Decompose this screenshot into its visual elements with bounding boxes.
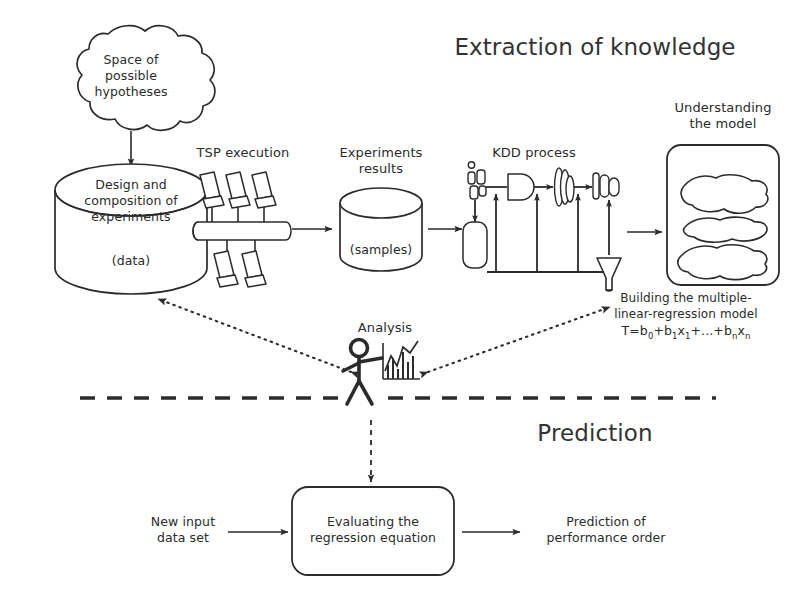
prediction-output-line2: performance order (521, 531, 691, 546)
analysis-caption: Analysis (330, 320, 440, 335)
model-blob-3 (678, 245, 767, 280)
results-caption-line2: results (326, 161, 436, 176)
kdd-caption: KDD process (464, 145, 604, 160)
feedback-arrow-right (428, 307, 610, 372)
formula-part-1: T=b (622, 323, 648, 338)
formula-part-4: +...+b (691, 323, 732, 338)
results-caption-line1: Experiments (326, 145, 436, 160)
formula-part-5: x (737, 323, 745, 338)
diagram-canvas: Extraction of knowledge Prediction Space… (0, 0, 794, 603)
design-cylinder-line3: experiments (56, 210, 206, 225)
hypotheses-cloud-line2: possible (71, 69, 191, 84)
kdd-pipeline-shape (463, 162, 621, 291)
design-cylinder-line2: composition of (51, 194, 211, 209)
evaluate-box-line1: Evaluating the (297, 515, 449, 530)
regression-note-line1: Building the multiple- (596, 291, 776, 305)
results-samples-label: (samples) (331, 243, 431, 258)
understanding-caption-line1: Understanding (653, 100, 793, 115)
prediction-output-line1: Prediction of (521, 515, 691, 530)
page-title-extraction: Extraction of knowledge (430, 34, 760, 61)
page-title-prediction: Prediction (500, 420, 690, 447)
results-cylinder-shape (340, 188, 422, 271)
design-cylinder-line1: Design and (56, 178, 206, 193)
evaluate-box-line2: regression equation (297, 531, 449, 546)
formula-part-3: x (678, 323, 686, 338)
hypotheses-cloud-line1: Space of (71, 53, 191, 68)
formula-sub-5: n (745, 331, 751, 341)
tsp-caption: TSP execution (178, 145, 308, 160)
regression-formula: T=b0+b1x1+...+bnxn (596, 324, 776, 341)
model-blob-2 (684, 217, 767, 242)
regression-note-line2: linear-regression model (596, 307, 776, 321)
feedback-arrow-left (158, 299, 351, 372)
understanding-model-box-shape (667, 145, 779, 285)
analysis-chart-shape (383, 341, 420, 379)
model-blob-1 (681, 175, 768, 214)
understanding-caption-line2: the model (653, 116, 793, 131)
new-input-label-line1: New input (133, 515, 233, 530)
formula-part-2: +b (653, 323, 672, 338)
design-cylinder-data-label: (data) (71, 254, 191, 269)
hypotheses-cloud-line3: hypotheses (71, 85, 191, 100)
new-input-label-line2: data set (133, 531, 233, 546)
